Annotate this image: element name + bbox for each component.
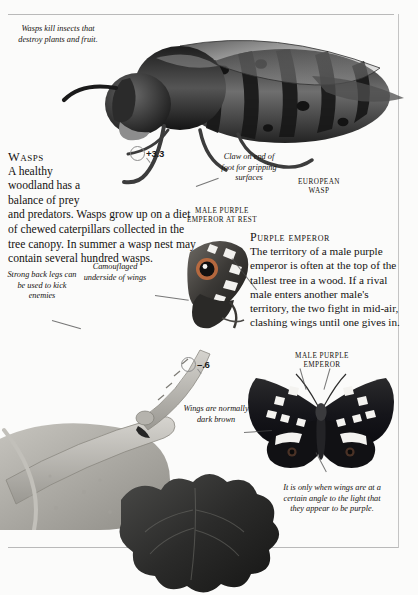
book-page: Wasps kill insects that destroy plants a… xyxy=(0,0,418,595)
magnifier-butterfly-scale: –.6 xyxy=(181,357,210,372)
label-european-wasp: European wasp xyxy=(288,178,350,196)
label-male-pe: Male purple emperor xyxy=(282,352,362,370)
purple-emperor-heading: Purple emperor xyxy=(250,230,410,244)
purple-emperor-body: The territory of a male purple emperor i… xyxy=(250,245,400,328)
wasps-article: Wasps A healthy woodland has a balance o… xyxy=(8,150,200,267)
top-rule xyxy=(8,14,394,15)
wasps-line-3: balance of prey xyxy=(8,194,104,209)
caption-angle-purple: It is only when wings are at a certain a… xyxy=(276,483,388,515)
purple-emperor-article: Purple emperor The territory of a male p… xyxy=(250,230,410,329)
magnifier-icon xyxy=(181,357,196,372)
oak-leaf-photo xyxy=(95,470,300,595)
caption-wasps-kill: Wasps kill insects that destroy plants a… xyxy=(14,24,102,45)
caption-claw: Claw on end of foot for gripping surface… xyxy=(218,152,280,184)
wasps-line-2: woodland has a xyxy=(8,179,104,194)
wasps-line-1: A healthy xyxy=(8,165,104,180)
wasps-heading: Wasps xyxy=(8,150,200,165)
male-purple-emperor-photo xyxy=(246,362,396,474)
caption-wings-brown: Wings are normally dark brown xyxy=(182,404,250,425)
wasps-body: and predators. Wasps grow up on a diet o… xyxy=(8,208,198,266)
caption-strong-legs: Strong back legs can be used to kick ene… xyxy=(6,270,78,302)
magnifier-value: –.6 xyxy=(197,359,210,370)
